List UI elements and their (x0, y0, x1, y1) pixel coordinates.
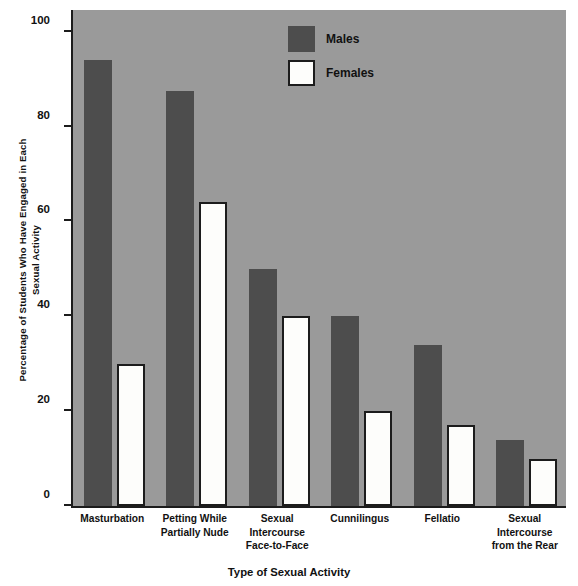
bar-females-1 (199, 202, 227, 506)
x-axis-label-5: SexualIntercoursefrom the Rear (484, 512, 567, 553)
legend-swatch-females (288, 60, 315, 86)
x-axis-label-4: Fellatio (401, 512, 484, 526)
x-axis-label-1: Petting WhilePartially Nude (154, 512, 237, 539)
y-tick-20: 20 (64, 409, 73, 411)
bar-females-2 (282, 316, 310, 506)
legend: Males Females (288, 23, 408, 91)
legend-item-males: Males (288, 23, 408, 54)
y-tick-100: 100 (64, 30, 73, 32)
bar-males-3 (331, 316, 359, 506)
y-tick-label-60: 60 (37, 203, 50, 215)
bar-females-0 (117, 364, 145, 506)
x-axis-title: Type of Sexual Activity (0, 566, 578, 578)
bar-males-0 (84, 60, 112, 506)
legend-item-females: Females (288, 57, 408, 88)
y-tick-40: 40 (64, 314, 73, 316)
bar-males-2 (249, 269, 277, 506)
y-axis-title-line-2: Sexual Activity (29, 138, 42, 381)
legend-swatch-males (288, 26, 315, 52)
y-tick-label-0: 0 (44, 488, 50, 500)
y-tick-label-20: 20 (37, 393, 50, 405)
y-axis-title-line-1: Percentage of Students Who Have Engaged … (17, 138, 28, 381)
x-axis-label-0: Masturbation (71, 512, 154, 526)
y-tick-label-100: 100 (31, 14, 50, 26)
x-axis-label-3: Cunnilingus (319, 512, 402, 526)
plot-area: 020406080100 Males Females (71, 10, 566, 508)
bar-females-3 (364, 411, 392, 506)
bar-males-5 (496, 440, 524, 506)
y-tick-label-40: 40 (37, 298, 50, 310)
x-axis-label-2: SexualIntercourseFace-to-Face (236, 512, 319, 553)
y-axis-title: Percentage of Students Who Have Engaged … (6, 0, 52, 520)
legend-label-males: Males (326, 32, 359, 46)
bar-chart-figure: Percentage of Students Who Have Engaged … (0, 0, 578, 586)
y-tick-60: 60 (64, 219, 73, 221)
y-tick-80: 80 (64, 125, 73, 127)
bar-males-4 (414, 345, 442, 506)
y-tick-0: 0 (64, 504, 73, 506)
bar-males-1 (166, 91, 194, 506)
bar-females-5 (529, 459, 557, 506)
legend-label-females: Females (326, 66, 374, 80)
y-tick-label-80: 80 (37, 109, 50, 121)
x-axis-category-labels: MasturbationPetting WhilePartially NudeS… (71, 512, 566, 568)
bar-females-4 (447, 425, 475, 506)
